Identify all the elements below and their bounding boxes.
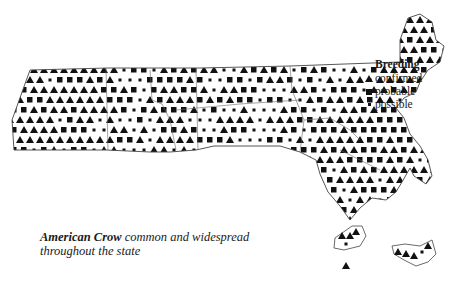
caption-text: common and widespread bbox=[125, 230, 250, 244]
triangle-icon bbox=[365, 75, 373, 82]
legend-item-confirmed: confirmed bbox=[363, 72, 422, 85]
legend: Breeding confirmed probable possible bbox=[363, 58, 422, 111]
square-icon bbox=[366, 89, 372, 95]
legend-item-possible: possible bbox=[363, 98, 422, 111]
species-name: American Crow bbox=[40, 230, 122, 244]
legend-title: Breeding bbox=[375, 58, 422, 71]
figure-caption: American Crow common and widespread thro… bbox=[40, 230, 249, 258]
dot-icon bbox=[368, 103, 371, 106]
legend-item-probable: probable bbox=[363, 85, 422, 98]
caption-text-2: throughout the state bbox=[40, 244, 249, 258]
legend-label: possible bbox=[375, 98, 413, 111]
legend-label: confirmed bbox=[375, 72, 422, 85]
legend-label: probable bbox=[375, 85, 415, 98]
islands bbox=[334, 226, 436, 266]
